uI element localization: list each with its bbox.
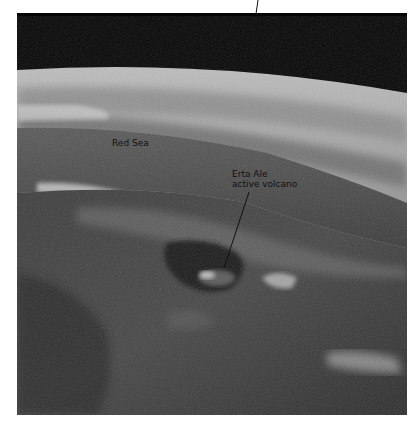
label-erta-ale-line1: Erta Ale xyxy=(232,169,297,179)
label-erta-ale-line2: active volcano xyxy=(232,179,297,189)
earth-photo xyxy=(17,13,407,415)
label-red-sea: Red Sea xyxy=(112,138,149,148)
label-erta-ale: Erta Ale active volcano xyxy=(232,169,297,189)
top-leader-line xyxy=(256,0,258,14)
earth-photo-graphic xyxy=(17,13,407,415)
